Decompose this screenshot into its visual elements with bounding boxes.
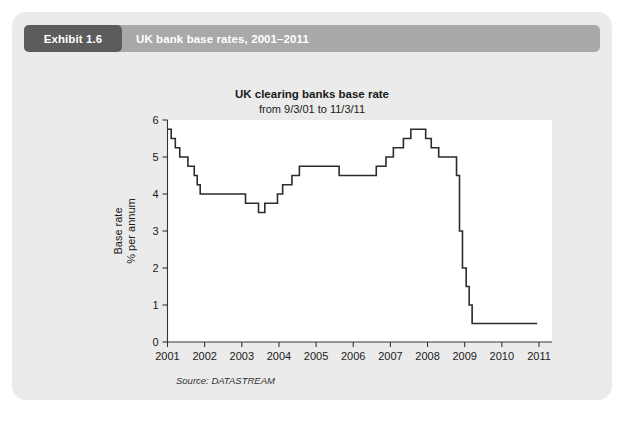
y-axis-title-line2: % per annum (125, 198, 137, 263)
exhibit-number-tab: Exhibit 1.6 (24, 25, 122, 52)
plot-background (167, 120, 552, 342)
y-tick-label-4: 4 (152, 188, 158, 200)
exhibit-number-label: Exhibit 1.6 (44, 33, 103, 45)
chart-source-note: Source: DATASTREAM (176, 375, 275, 386)
y-tick-label-2: 2 (152, 262, 158, 274)
y-axis-ticks: 0123456 (152, 114, 167, 348)
x-tick-label-2001: 2001 (155, 350, 179, 362)
y-tick-label-0: 0 (152, 336, 158, 348)
y-axis-title-line1: Base rate (112, 207, 124, 254)
y-tick-label-5: 5 (152, 151, 158, 163)
x-tick-label-2006: 2006 (341, 350, 365, 362)
exhibit-header-bar: Exhibit 1.6 UK bank base rates, 2001–201… (24, 25, 600, 52)
x-tick-label-2011: 2011 (527, 350, 551, 362)
x-tick-label-2007: 2007 (378, 350, 402, 362)
base-rate-line-chart: 0123456 20012002200320042005200620072008… (24, 60, 600, 390)
exhibit-card: Exhibit 1.6 UK bank base rates, 2001–201… (12, 12, 612, 400)
y-tick-label-3: 3 (152, 225, 158, 237)
y-tick-label-6: 6 (152, 114, 158, 126)
y-tick-label-1: 1 (152, 299, 158, 311)
x-tick-label-2010: 2010 (490, 350, 514, 362)
exhibit-caption: UK bank base rates, 2001–2011 (136, 25, 309, 52)
x-tick-label-2005: 2005 (304, 350, 328, 362)
x-tick-label-2009: 2009 (452, 350, 476, 362)
chart-region: UK clearing banks base rate from 9/3/01 … (24, 60, 600, 390)
x-tick-label-2004: 2004 (267, 350, 291, 362)
x-axis-ticks: 2001200220032004200520062007200820092010… (155, 342, 551, 362)
x-tick-label-2002: 2002 (192, 350, 216, 362)
x-tick-label-2003: 2003 (230, 350, 254, 362)
x-tick-label-2008: 2008 (415, 350, 439, 362)
